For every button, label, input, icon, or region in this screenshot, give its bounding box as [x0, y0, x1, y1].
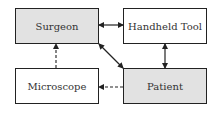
node-microscope: Microscope — [15, 68, 99, 104]
node-surgeon-label: Surgeon — [36, 21, 79, 32]
node-microscope-label: Microscope — [28, 81, 87, 92]
node-patient-label: Patient — [147, 81, 183, 92]
node-patient: Patient — [123, 68, 207, 104]
edge-surgeon-patient — [99, 44, 123, 68]
node-handheld-tool: Handheld Tool — [123, 8, 207, 44]
node-surgeon: Surgeon — [15, 8, 99, 44]
node-handheld-tool-label: Handheld Tool — [128, 21, 202, 32]
